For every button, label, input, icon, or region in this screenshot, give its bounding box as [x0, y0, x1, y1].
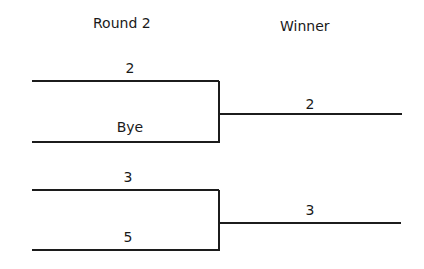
match-1-bottom-label: Bye: [110, 119, 150, 135]
match-1-connector: [218, 81, 220, 143]
match-2-winner-line: [219, 222, 401, 224]
match-2-top-line: [32, 189, 219, 191]
winner-header: Winner: [280, 18, 330, 34]
match-2-connector: [218, 190, 220, 251]
match-1-winner-label: 2: [290, 96, 330, 112]
match-2-bottom-line: [32, 249, 219, 251]
round-2-header: Round 2: [93, 15, 151, 31]
match-1-bottom-line: [32, 141, 219, 143]
match-1-top-label: 2: [110, 60, 150, 76]
match-1-top-line: [32, 80, 219, 82]
match-2-winner-label: 3: [290, 202, 330, 218]
match-1-winner-line: [219, 113, 402, 115]
match-2-bottom-label: 5: [108, 229, 148, 245]
match-2-top-label: 3: [108, 169, 148, 185]
